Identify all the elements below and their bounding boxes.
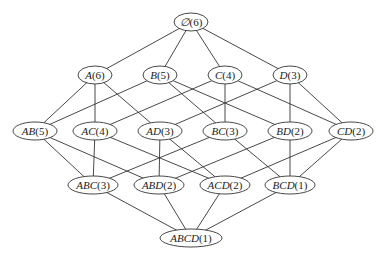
node-set-name: ∅	[180, 16, 190, 28]
node-label: B(5)	[150, 69, 170, 82]
node-label: BC(3)	[212, 125, 239, 138]
node-label: ∅(6)	[180, 16, 203, 29]
node-BC: BC(3)	[203, 122, 247, 140]
node-ABC: ABC(3)	[68, 176, 118, 194]
node-label: AB(5)	[21, 125, 49, 138]
node-AB: AB(5)	[13, 122, 57, 140]
node-count: (5)	[35, 125, 48, 138]
node-count: (1)	[295, 179, 308, 192]
node-label: AC(4)	[81, 125, 109, 138]
node-label: ABD(2)	[141, 179, 177, 192]
node-count: (3)	[97, 179, 110, 192]
node-set-name: ACD	[207, 179, 230, 191]
node-AD: AD(3)	[138, 122, 182, 140]
node-A: A(6)	[78, 66, 112, 84]
node-count: (3)	[226, 125, 239, 138]
node-count: (6)	[92, 69, 105, 82]
node-BCD: BCD(1)	[265, 176, 315, 194]
node-label: ABCD(1)	[169, 232, 212, 245]
node-label: CD(2)	[337, 125, 365, 138]
node-set-name: D	[279, 69, 288, 81]
node-label: BD(2)	[276, 125, 304, 138]
node-empty: ∅(6)	[174, 13, 208, 31]
node-ACD: ACD(2)	[200, 176, 250, 194]
node-count: (2)	[230, 179, 243, 192]
node-count: (2)	[291, 125, 304, 138]
node-set-name: AD	[145, 125, 161, 137]
node-ABD: ABD(2)	[134, 176, 184, 194]
node-ABCD: ABCD(1)	[160, 229, 222, 247]
node-label: BCD(1)	[273, 179, 308, 192]
node-set-name: BCD	[273, 179, 295, 191]
node-count: (6)	[190, 16, 203, 29]
node-count: (4)	[96, 125, 109, 138]
edge-empty-A	[95, 22, 191, 75]
node-count: (2)	[352, 125, 365, 138]
node-count: (3)	[161, 125, 174, 138]
node-CD: CD(2)	[329, 122, 373, 140]
node-set-name: BD	[276, 125, 291, 137]
edge-empty-D	[191, 22, 290, 75]
node-label: ABC(3)	[75, 179, 110, 192]
node-set-name: ABCD	[169, 232, 199, 244]
node-count: (2)	[163, 179, 176, 192]
node-set-name: BC	[212, 125, 227, 137]
node-set-name: AB	[21, 125, 36, 137]
node-B: B(5)	[143, 66, 177, 84]
nodes-layer: ∅(6)A(6)B(5)C(4)D(3)AB(5)AC(4)AD(3)BC(3)…	[13, 13, 373, 247]
node-label: ACD(2)	[207, 179, 243, 192]
node-set-name: ABD	[141, 179, 163, 191]
node-label: A(6)	[84, 69, 105, 82]
node-label: D(3)	[279, 69, 301, 82]
node-D: D(3)	[273, 66, 307, 84]
subset-lattice-diagram: ∅(6)A(6)B(5)C(4)D(3)AB(5)AC(4)AD(3)BC(3)…	[0, 0, 383, 256]
node-count: (5)	[157, 69, 170, 82]
node-set-name: ABC	[75, 179, 97, 191]
node-label: AD(3)	[145, 125, 174, 138]
node-C: C(4)	[208, 66, 242, 84]
node-count: (3)	[288, 69, 301, 82]
node-count: (1)	[199, 232, 212, 245]
node-set-name: AC	[81, 125, 97, 137]
node-set-name: CD	[337, 125, 352, 137]
node-BD: BD(2)	[268, 122, 312, 140]
node-label: C(4)	[215, 69, 236, 82]
node-count: (4)	[222, 69, 235, 82]
node-AC: AC(4)	[73, 122, 117, 140]
